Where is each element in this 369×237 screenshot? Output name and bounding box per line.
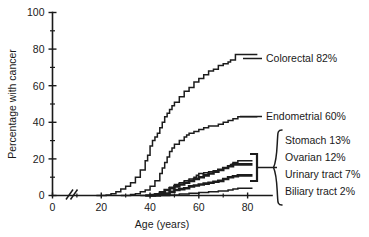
series-label-endometrial: Endometrial 60% <box>266 110 346 122</box>
x-tick-label: 80 <box>242 201 254 213</box>
chart-canvas: 020406080100 020406080 Age (years) Perce… <box>0 0 369 237</box>
series-curves <box>96 55 257 196</box>
y-tick-label: 60 <box>33 80 45 92</box>
series-label-stomach: Stomach 13% <box>285 134 350 146</box>
series-label-colorectal: Colorectal 82% <box>266 52 337 64</box>
lower-curves-bracket <box>250 154 257 181</box>
y-axis-tick-labels: 020406080100 <box>27 6 45 201</box>
x-tick-label: 20 <box>95 201 107 213</box>
x-tick-label: 60 <box>193 201 205 213</box>
y-tick-label: 80 <box>33 43 45 55</box>
series-label-ovarian: Ovarian 12% <box>285 151 346 163</box>
x-axis-break-icon <box>66 190 78 200</box>
y-tick-label: 100 <box>27 6 45 18</box>
series-label-biliary-tract: Biliary tract 2% <box>285 185 355 197</box>
series-label-urinary-tract: Urinary tract 7% <box>285 168 360 180</box>
x-tick-label: 40 <box>144 201 156 213</box>
y-axis-title: Percentage with cancer <box>6 49 18 159</box>
curve-colorectal <box>96 55 257 196</box>
cancer-risk-chart: 020406080100 020406080 Age (years) Perce… <box>0 0 369 237</box>
y-tick-label: 20 <box>33 153 45 165</box>
y-tick-label: 0 <box>39 189 45 201</box>
curve-ovarian <box>145 164 252 195</box>
x-axis-tick-labels: 020406080 <box>50 201 254 213</box>
x-tick-label: 0 <box>50 201 56 213</box>
x-axis-title: Age (years) <box>135 218 189 230</box>
y-tick-label: 40 <box>33 116 45 128</box>
